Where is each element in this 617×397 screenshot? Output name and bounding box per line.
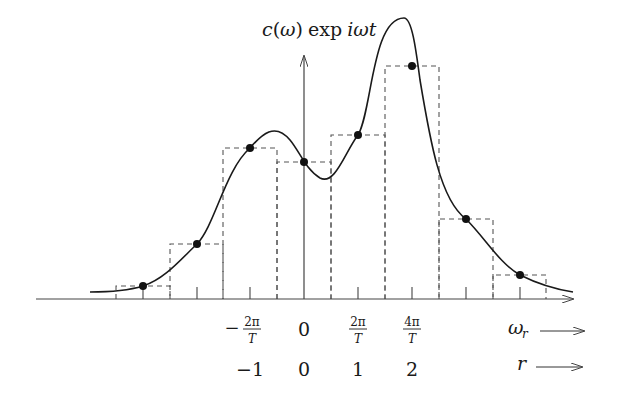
r-tick-1: 1	[352, 358, 364, 380]
svg-text:T: T	[408, 332, 417, 346]
omega-r-axis-label: ω r	[508, 316, 584, 341]
svg-text:T: T	[248, 332, 257, 346]
sample-dot	[354, 131, 362, 139]
omega-tick-labels: − 2π T 0 2π T 4π T	[224, 315, 421, 346]
svg-text:−: −	[224, 317, 239, 338]
omega-tick-2pi-over-T: 2π T	[349, 315, 367, 346]
svg-text:2π: 2π	[244, 315, 260, 329]
sample-dot	[193, 240, 201, 248]
step-box-r-2	[385, 66, 439, 299]
svg-text:2π: 2π	[350, 315, 366, 329]
sample-dot	[516, 271, 524, 279]
omega-tick-0: 0	[298, 318, 310, 340]
omega-tick-4pi-over-T: 4π T	[403, 315, 421, 346]
sample-dot	[300, 158, 308, 166]
r-tick-minus1: −1	[236, 358, 264, 380]
step-box-r-minus1	[223, 148, 277, 299]
svg-text:T: T	[354, 332, 363, 346]
r-tick-2: 2	[406, 358, 418, 380]
step-box-r-1	[331, 135, 385, 299]
r-tick-labels: −1 0 1 2	[236, 358, 418, 380]
r-tick-0: 0	[298, 358, 310, 380]
omega-tick-minus-2pi-over-T: − 2π T	[224, 315, 261, 346]
step-approximation	[116, 66, 546, 299]
svg-text:4π: 4π	[404, 315, 420, 329]
y-axis-title: c(ω)expiωt	[262, 18, 377, 40]
fourier-sampling-diagram: c(ω)expiωt − 2π T 0 2π T 4π T −1 0 1 2 ω…	[0, 0, 617, 397]
sample-dot	[408, 62, 416, 70]
r-axis-label: r	[517, 352, 582, 374]
sample-dot	[139, 282, 147, 290]
sample-dot	[462, 215, 470, 223]
svg-text:r: r	[522, 327, 529, 341]
sample-dot	[246, 144, 254, 152]
svg-text:r: r	[517, 352, 528, 374]
